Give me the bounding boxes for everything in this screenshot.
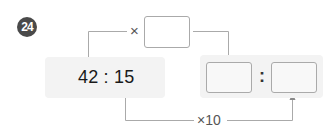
result-right-answer-box[interactable] <box>271 62 317 93</box>
problem-number-badge: 24 <box>17 17 37 37</box>
multiplier-answer-box[interactable] <box>144 16 190 48</box>
multiply-by-ten-label: ×10 <box>195 112 223 128</box>
result-left-answer-box[interactable] <box>206 62 252 93</box>
ratio-colon: : <box>257 65 267 87</box>
problem-number: 24 <box>21 20 33 34</box>
multiply-operator-top: × <box>129 23 140 39</box>
original-ratio: 42 : 15 <box>78 67 134 87</box>
